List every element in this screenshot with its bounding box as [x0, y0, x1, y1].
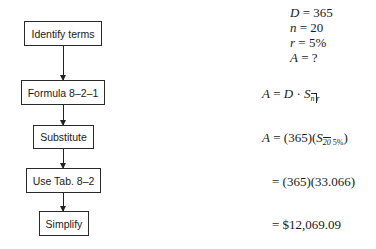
step-label: Use Tab. 8–2 [33, 175, 95, 187]
step-substitute: Substitute [33, 125, 94, 149]
step-formula: Formula 8–2–1 [21, 80, 105, 105]
arrow-down-icon [63, 105, 64, 125]
result-expression: = $12,069.09 [272, 217, 341, 232]
given-n: n = 20 [290, 20, 323, 35]
arrow-down-icon [63, 46, 64, 80]
arrow-down-icon [63, 193, 64, 211]
step-use-table: Use Tab. 8–2 [26, 168, 101, 193]
arrow-down-icon [63, 149, 64, 168]
step-simplify: Simplify [39, 211, 89, 236]
step-label: Formula 8–2–1 [28, 87, 99, 99]
table-value-expression: = (365)(33.066) [272, 174, 355, 189]
substitute-expression: A = (365)(S20 5%) [262, 130, 348, 147]
given-r: r = 5% [290, 35, 326, 50]
given-D: D = 365 [290, 5, 333, 20]
step-label: Substitute [40, 131, 87, 143]
step-label: Identify terms [31, 28, 94, 40]
step-identify-terms: Identify terms [24, 21, 102, 46]
formula-expression: A = D · Snr [262, 86, 320, 103]
given-A: A = ? [290, 50, 318, 65]
step-label: Simplify [46, 218, 83, 230]
